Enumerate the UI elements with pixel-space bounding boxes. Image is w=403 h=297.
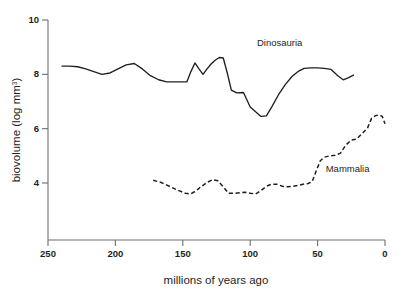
y-tick-label: 8	[34, 68, 39, 79]
series-line-mammalia	[153, 115, 385, 194]
series-annotation-group: DinosauriaMammalia	[257, 37, 370, 174]
x-tick-label: 200	[107, 248, 123, 259]
series-label-mammalia: Mammalia	[326, 163, 371, 174]
x-tick-label: 150	[175, 248, 191, 259]
x-tick-group: 250200150100500	[40, 240, 388, 259]
x-tick-label: 0	[382, 248, 387, 259]
y-tick-label: 6	[34, 123, 39, 134]
x-axis-title: millions of years ago	[164, 274, 269, 286]
chart-figure: 10864 250200150100500 DinosauriaMammalia…	[0, 0, 403, 297]
series-label-dinosauria: Dinosauria	[257, 37, 303, 48]
y-axis-title: biovolume (log mm3)	[10, 78, 22, 183]
y-axis: 10864	[28, 14, 48, 240]
y-tick-label: 4	[34, 177, 40, 188]
y-tick-group: 10864	[28, 14, 48, 188]
x-tick-label: 250	[40, 248, 56, 259]
series-line-dinosauria	[61, 57, 354, 116]
x-tick-label: 50	[312, 248, 323, 259]
x-tick-label: 100	[242, 248, 258, 259]
x-axis: 250200150100500	[40, 240, 388, 259]
y-tick-label: 10	[28, 14, 39, 25]
biovolume-line-chart: 10864 250200150100500 DinosauriaMammalia…	[0, 0, 403, 297]
